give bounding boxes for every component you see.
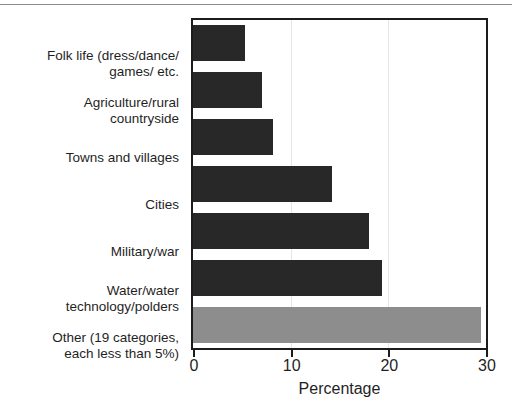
category-label-agriculture-rural-countryside: Agriculture/rural countryside — [0, 95, 179, 127]
bar-5 — [193, 260, 382, 296]
x-tick-20 — [388, 350, 390, 357]
x-tick-label-0: 0 — [164, 357, 224, 375]
page-top-rule — [0, 4, 512, 5]
x-tick-label-30: 30 — [457, 357, 512, 375]
bar-chart-figure: Folk life (dress/dance/ games/ etc. Agri… — [0, 0, 512, 415]
bar-row — [193, 72, 262, 108]
bar-row — [193, 213, 369, 249]
bar-row — [193, 307, 481, 343]
category-label-line: Folk life (dress/dance/ — [0, 48, 179, 64]
x-tick-label-10: 10 — [262, 357, 322, 375]
category-axis-labels: Folk life (dress/dance/ games/ etc. Agri… — [0, 18, 185, 350]
bar-4 — [193, 213, 369, 249]
x-tick-10 — [291, 350, 293, 357]
category-label-line: countryside — [0, 111, 179, 127]
category-label-water-technology-polders: Water/water technology/polders — [0, 283, 179, 315]
bar-6 — [193, 307, 481, 343]
bar-0 — [193, 25, 245, 61]
bar-series — [193, 20, 486, 348]
x-tick-30 — [486, 350, 488, 357]
x-tick-label-20: 20 — [359, 357, 419, 375]
bar-1 — [193, 72, 262, 108]
plot-area — [191, 18, 488, 350]
x-tick-0 — [193, 350, 195, 357]
category-label-towns-and-villages: Towns and villages — [0, 150, 179, 166]
category-label-line: technology/polders — [0, 299, 179, 315]
category-label-folk-life: Folk life (dress/dance/ games/ etc. — [0, 48, 179, 80]
category-label-line: Military/war — [0, 244, 179, 260]
bar-row — [193, 260, 382, 296]
x-axis-tick-labels: 0102030 — [0, 357, 512, 379]
category-label-line: Water/water — [0, 283, 179, 299]
category-label-cities: Cities — [0, 197, 179, 213]
category-label-line: Towns and villages — [0, 150, 179, 166]
bar-3 — [193, 166, 332, 202]
category-label-line: games/ etc. — [0, 64, 179, 80]
bar-row — [193, 25, 245, 61]
category-label-line: Cities — [0, 197, 179, 213]
bar-row — [193, 166, 332, 202]
x-axis-title: Percentage — [191, 380, 488, 398]
bar-row — [193, 119, 273, 155]
category-label-line: Agriculture/rural — [0, 95, 179, 111]
category-label-military-war: Military/war — [0, 244, 179, 260]
bar-2 — [193, 119, 273, 155]
category-label-line: Other (19 categories, — [0, 330, 179, 346]
